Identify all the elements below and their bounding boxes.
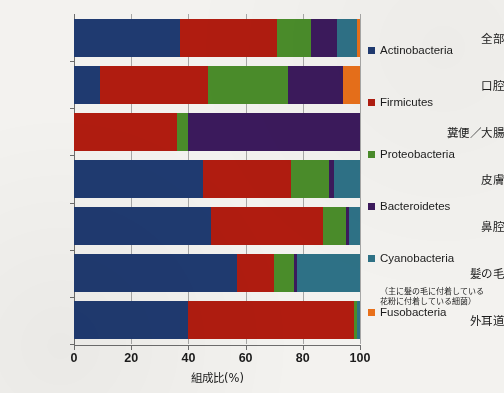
bar-segment-firmicutes bbox=[211, 207, 323, 245]
bar-segment-proteobacteria bbox=[291, 160, 328, 198]
legend-item-actinobacteria[interactable]: Actinobacteria bbox=[368, 44, 453, 57]
bar-row bbox=[74, 66, 360, 104]
legend-swatch-icon bbox=[368, 99, 375, 106]
x-axis-line bbox=[74, 345, 361, 346]
legend-label: Firmicutes bbox=[380, 96, 433, 109]
bar-segment-proteobacteria bbox=[208, 66, 288, 104]
bar-segment-proteobacteria bbox=[323, 207, 346, 245]
x-tick-label-60: 60 bbox=[226, 351, 266, 365]
bar-segment-bacteroidetes bbox=[288, 66, 342, 104]
bar-segment-cyanobacteria bbox=[297, 254, 360, 292]
bar-segment-bacteroidetes bbox=[311, 19, 337, 57]
bar-segment-fusobacteria bbox=[357, 19, 360, 57]
legend-note-cyanobacteria: （主に髪の毛に付着している 花粉に付着している細菌） bbox=[380, 287, 504, 307]
legend-item-cyanobacteria[interactable]: Cyanobacteria bbox=[368, 252, 454, 265]
x-tick-40 bbox=[188, 345, 189, 350]
legend-label: Bacteroidetes bbox=[380, 200, 450, 213]
bar-segment-firmicutes bbox=[203, 160, 292, 198]
legend-swatch-icon bbox=[368, 203, 375, 210]
x-tick-0 bbox=[74, 345, 75, 350]
x-tick-80 bbox=[303, 345, 304, 350]
plot-area bbox=[74, 14, 360, 344]
category-label-1: 口腔 bbox=[436, 77, 504, 93]
legend-label: Proteobacteria bbox=[380, 148, 455, 161]
legend-item-bacteroidetes[interactable]: Bacteroidetes bbox=[368, 200, 450, 213]
bar-segment-firmicutes bbox=[237, 254, 274, 292]
bar-segment-firmicutes bbox=[100, 66, 209, 104]
bar-segment-cyanobacteria bbox=[349, 207, 360, 245]
bar-segment-cyanobacteria bbox=[334, 160, 360, 198]
bar-segment-actinobacteria bbox=[74, 66, 100, 104]
bar-segment-actinobacteria bbox=[74, 19, 180, 57]
bar-segment-firmicutes bbox=[180, 19, 277, 57]
category-label-4: 鼻腔 bbox=[436, 218, 504, 234]
x-tick-label-40: 40 bbox=[168, 351, 208, 365]
bar-segment-firmicutes bbox=[188, 301, 354, 339]
category-label-5: 髪の毛 bbox=[436, 265, 504, 281]
category-label-2: 糞便／大腸 bbox=[436, 124, 504, 140]
x-tick-100 bbox=[360, 345, 361, 350]
legend-label: Actinobacteria bbox=[380, 44, 453, 57]
bar-segment-cyanobacteria bbox=[337, 19, 357, 57]
x-tick-20 bbox=[131, 345, 132, 350]
bar-segment-firmicutes bbox=[74, 113, 177, 151]
bar-segment-proteobacteria bbox=[177, 113, 188, 151]
x-axis-title: 組成比(%) bbox=[74, 369, 361, 385]
bar-segment-proteobacteria bbox=[277, 19, 311, 57]
bar-segment-fusobacteria bbox=[343, 66, 360, 104]
legend-label: Cyanobacteria bbox=[380, 252, 454, 265]
chart-figure: 全部口腔糞便／大腸皮膚鼻腔髪の毛外耳道 020406080100 組成比(%) … bbox=[0, 0, 504, 393]
legend-label: Fusobacteria bbox=[380, 306, 446, 319]
legend-swatch-icon bbox=[368, 47, 375, 54]
bar-segment-cyanobacteria bbox=[357, 301, 360, 339]
bar-row bbox=[74, 113, 360, 151]
bar-segment-actinobacteria bbox=[74, 254, 237, 292]
bar-segment-bacteroidetes bbox=[188, 113, 360, 151]
y-tick-6 bbox=[70, 344, 75, 345]
legend-swatch-icon bbox=[368, 151, 375, 158]
x-tick-label-80: 80 bbox=[283, 351, 323, 365]
legend-swatch-icon bbox=[368, 255, 375, 262]
x-tick-label-100: 100 bbox=[340, 351, 380, 365]
bar-segment-proteobacteria bbox=[274, 254, 294, 292]
bar-segment-actinobacteria bbox=[74, 301, 188, 339]
legend-item-fusobacteria[interactable]: Fusobacteria bbox=[368, 306, 446, 319]
category-label-3: 皮膚 bbox=[436, 171, 504, 187]
bar-row bbox=[74, 254, 360, 292]
bar-row bbox=[74, 160, 360, 198]
legend-item-firmicutes[interactable]: Firmicutes bbox=[368, 96, 433, 109]
bar-row bbox=[74, 207, 360, 245]
legend-item-proteobacteria[interactable]: Proteobacteria bbox=[368, 148, 455, 161]
bar-segment-actinobacteria bbox=[74, 207, 211, 245]
bar-segment-actinobacteria bbox=[74, 160, 203, 198]
gridline-100 bbox=[360, 14, 361, 344]
x-tick-label-0: 0 bbox=[54, 351, 94, 365]
x-tick-label-20: 20 bbox=[111, 351, 151, 365]
legend-swatch-icon bbox=[368, 309, 375, 316]
x-tick-60 bbox=[246, 345, 247, 350]
bar-row bbox=[74, 301, 360, 339]
bar-row bbox=[74, 19, 360, 57]
legend-note-line-1: （主に髪の毛に付着している bbox=[380, 287, 504, 297]
